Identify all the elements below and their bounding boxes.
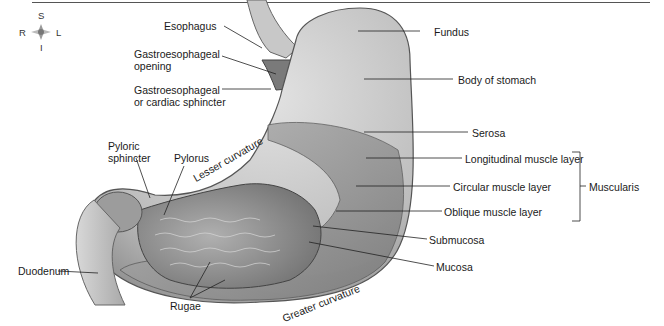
- label-pyloric-sphincter: Pyloric sphincter: [108, 140, 151, 164]
- label-serosa: Serosa: [472, 127, 505, 139]
- compass-right: R: [19, 27, 26, 38]
- label-longitudinal-muscle: Longitudinal muscle layer: [465, 153, 583, 165]
- label-muscularis: Muscularis: [589, 181, 639, 193]
- compass-icon: [31, 24, 51, 40]
- compass-left: L: [56, 27, 61, 38]
- label-circular-muscle: Circular muscle layer: [453, 181, 551, 193]
- label-ge-opening: Gastroesophageal opening: [134, 48, 220, 72]
- compass-inferior: I: [40, 42, 43, 53]
- label-oblique-muscle: Oblique muscle layer: [444, 206, 542, 218]
- label-body-of-stomach: Body of stomach: [458, 74, 536, 86]
- label-pylorus: Pylorus: [174, 152, 209, 164]
- label-submucosa: Submucosa: [429, 234, 484, 246]
- label-mucosa: Mucosa: [436, 261, 473, 273]
- label-rugae: Rugae: [170, 300, 201, 312]
- label-ge-sphincter: Gastroesophageal or cardiac sphincter: [134, 84, 226, 108]
- label-esophagus: Esophagus: [164, 20, 217, 32]
- label-duodenum: Duodenum: [18, 265, 69, 277]
- label-fundus: Fundus: [434, 26, 469, 38]
- compass-superior: S: [38, 10, 44, 21]
